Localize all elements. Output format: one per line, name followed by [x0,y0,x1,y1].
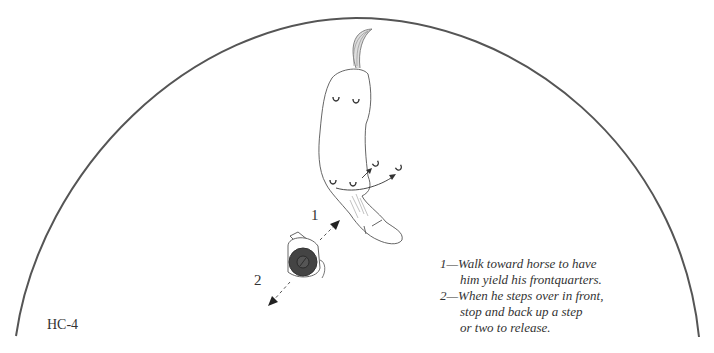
legend-line-5: or two to release. [440,320,603,336]
step-marker-1: 1 [311,207,319,224]
horse-tail [353,29,372,68]
step-marker-2: 2 [254,272,262,289]
legend-line-1: 1—Walk toward horse to have [440,256,603,272]
horse-body [319,69,402,244]
horse-illustration [319,29,403,244]
legend-line-3: 2—When he steps over in front, [440,288,603,304]
legend-line-2: him yield his frontquarters. [440,272,603,288]
handler-illustration [288,232,325,278]
instruction-legend: 1—Walk toward horse to have him yield hi… [440,256,603,336]
figure-label: HC-4 [47,317,78,333]
diagram-canvas [0,0,714,353]
legend-line-4: stop and back up a step [440,304,603,320]
